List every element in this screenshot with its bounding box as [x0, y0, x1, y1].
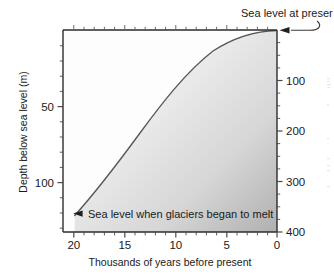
- y2-tick-label-300: 300: [286, 176, 305, 188]
- x-axis-title: Thousands of years before present: [89, 256, 252, 268]
- annotation-sea-level-present-label: Sea level at preser: [241, 7, 333, 19]
- y-axis-title: Depth below sea level (m): [17, 71, 29, 192]
- x-tick-label-20: 20: [67, 239, 80, 251]
- chart-canvas: 50 100 100 200 300 400 20 15 10 5 0 Dept…: [0, 0, 334, 274]
- annotation-glaciers-melt-label: Sea level when glaciers began to melt: [88, 208, 273, 220]
- y2-tick-label-200: 200: [286, 125, 305, 137]
- y-tick-label-100: 100: [35, 177, 54, 189]
- y2-tick-label-400: 400: [286, 226, 305, 238]
- x-tick-label-0: 0: [274, 239, 280, 251]
- y-tick-label-50: 50: [41, 101, 54, 113]
- x-tick-label-15: 15: [118, 239, 131, 251]
- sea-level-chart-figure: 50 100 100 200 300 400 20 15 10 5 0 Dept…: [0, 0, 334, 274]
- x-tick-label-10: 10: [169, 239, 182, 251]
- y2-tick-label-100: 100: [286, 75, 305, 87]
- annotation-glaciers-melt: Sea level when glaciers began to melt: [73, 208, 273, 220]
- x-tick-label-5: 5: [224, 239, 230, 251]
